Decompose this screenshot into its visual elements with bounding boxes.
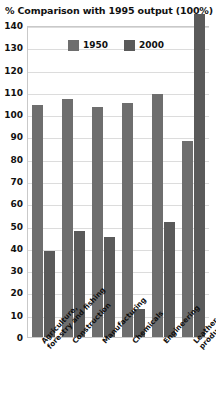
plot-area [27, 26, 209, 338]
chart-legend: 1950 2000 [68, 40, 164, 51]
legend-item-1950[interactable]: 1950 [68, 40, 108, 51]
y-axis-tick-label: 120 [4, 66, 23, 76]
bar-1950[interactable] [122, 103, 133, 337]
y-axis-tick-label: 40 [10, 244, 23, 254]
legend-item-2000[interactable]: 2000 [124, 40, 164, 51]
bar-1950[interactable] [62, 99, 73, 337]
y-axis-tick-label: 20 [10, 288, 23, 298]
legend-swatch-2000 [124, 40, 135, 51]
y-axis-tick-label: 10 [10, 311, 23, 321]
y-axis-tick-label: 60 [10, 199, 23, 209]
y-axis-tick-label: 70 [10, 177, 23, 187]
y-axis-tick-label: 80 [10, 155, 23, 165]
bar-2000[interactable] [164, 222, 175, 337]
x-axis: Agriculture,forestry and fishingConstruc… [27, 338, 209, 414]
legend-label-1950: 1950 [83, 41, 108, 50]
y-axis-tick-label: 50 [10, 222, 23, 232]
y-axis-tick-label: 0 [17, 333, 23, 343]
y-axis-tick-label: 130 [4, 43, 23, 53]
y-axis-tick-label: 100 [4, 110, 23, 120]
bar-1950[interactable] [32, 105, 43, 337]
bar-group [119, 27, 149, 337]
bar-2000[interactable] [104, 237, 115, 337]
chart-title: % Comparison with 1995 output (100%) [5, 5, 213, 16]
y-axis-tick-label: 30 [10, 266, 23, 276]
bar-group [149, 27, 179, 337]
y-axis-tick-label: 90 [10, 132, 23, 142]
y-axis-tick-label: 110 [4, 88, 23, 98]
y-axis: 1401301201101009080706050403020100 [0, 26, 25, 338]
bar-2000[interactable] [194, 14, 205, 337]
bar-group [58, 27, 88, 337]
bar-chart: % Comparison with 1995 output (100%) 195… [0, 0, 216, 414]
legend-swatch-1950 [68, 40, 79, 51]
bar-group [179, 27, 209, 337]
bars-layer [28, 27, 209, 337]
legend-label-2000: 2000 [139, 41, 164, 50]
bar-1950[interactable] [152, 94, 163, 337]
y-axis-tick-label: 140 [4, 21, 23, 31]
bar-group [28, 27, 58, 337]
